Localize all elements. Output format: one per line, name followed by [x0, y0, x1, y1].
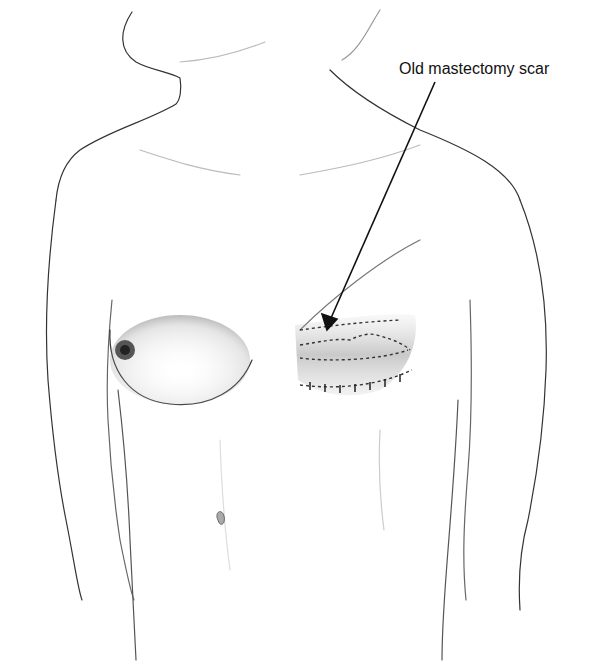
right-arm-outline: [519, 200, 546, 610]
annotation-arrow: [322, 82, 435, 330]
illustration-canvas: Old mastectomy scar: [0, 0, 595, 666]
neck-shoulder-left-outline: [56, 12, 181, 200]
left-arm-outline: [46, 200, 82, 600]
left-breast-shading: [110, 315, 250, 405]
right-chest-shading: [295, 314, 416, 395]
shoulder-right-outline: [330, 70, 520, 200]
torso-illustration: [0, 0, 595, 666]
navel: [217, 512, 225, 525]
